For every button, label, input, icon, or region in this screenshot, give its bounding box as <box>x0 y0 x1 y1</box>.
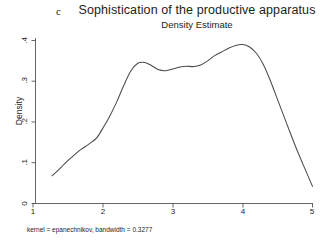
density-estimate-figure: c Sophistication of the productive appar… <box>0 0 328 242</box>
x-tick-label-1: 2 <box>96 207 110 216</box>
x-tick-label-4: 5 <box>305 207 319 216</box>
y-tick-label-0: .4 <box>20 34 29 48</box>
y-axis-label: Density <box>14 81 24 141</box>
x-tick-label-2: 3 <box>166 207 180 216</box>
chart-title: Sophistication of the productive apparat… <box>68 3 326 18</box>
chart-subtitle: Density Estimate <box>68 19 326 31</box>
density-curve <box>52 44 313 186</box>
axis-spines <box>33 38 313 204</box>
panel-letter: c <box>56 4 61 18</box>
y-tick-label-3: .1 <box>20 156 29 170</box>
x-tick-label-3: 4 <box>236 207 250 216</box>
y-tick-label-1: .3 <box>20 74 29 88</box>
chart-caption: kernel = epanechnikov, bandwidth = 0.327… <box>27 225 152 234</box>
y-axis-ticks <box>32 41 36 204</box>
y-tick-label-2: .2 <box>20 115 29 129</box>
x-tick-label-0: 1 <box>26 207 40 216</box>
plot-area <box>0 0 328 242</box>
